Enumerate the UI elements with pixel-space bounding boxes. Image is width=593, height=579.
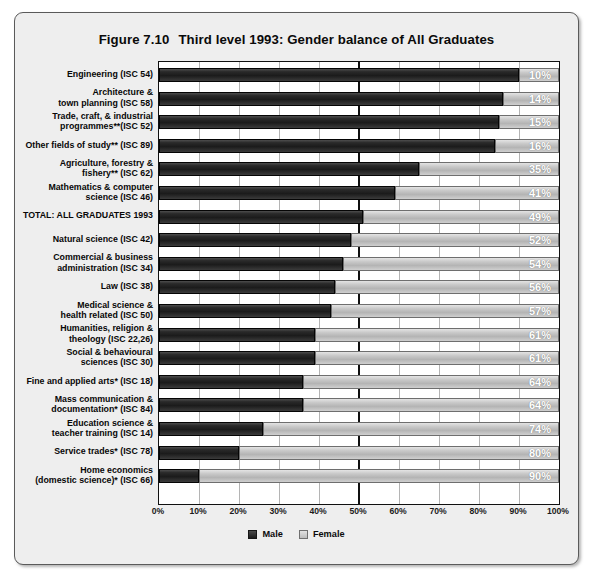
category-label-line: programmes**(ISC 52) [19, 121, 153, 132]
bar-segment-female [351, 233, 559, 247]
category-label-line: teacher training (ISC 14) [19, 428, 153, 439]
bar-segment-male [159, 257, 343, 271]
bar-segment-female [239, 446, 559, 460]
x-tick-label: 50% [349, 506, 366, 516]
category-label-line: Education science & [19, 418, 153, 429]
bar-row: 74% [159, 422, 559, 436]
bar-segment-female [303, 375, 559, 389]
legend-label-male: Male [262, 529, 282, 539]
category-label: Architecture &town planning (ISC 58) [19, 87, 153, 108]
category-label-line: Mathematics & computer [19, 182, 153, 193]
legend-swatch-female-icon [299, 530, 308, 539]
category-label-line: Architecture & [19, 87, 153, 98]
plot-area: 10%14%15%16%35%41%49%52%54%56%57%61%61%6… [158, 61, 560, 505]
category-label: TOTAL: ALL GRADUATES 1993 [19, 210, 153, 221]
bar-segment-male [159, 92, 503, 106]
x-tick-label: 90% [509, 506, 526, 516]
bar-segment-female [503, 92, 559, 106]
bar-segment-male [159, 375, 303, 389]
bar-segment-male [159, 210, 363, 224]
figure-title-text: Third level 1993: Gender balance of All … [178, 32, 494, 47]
bar-segment-female [495, 139, 559, 153]
category-label-line: Social & behavioural [19, 347, 153, 358]
bar-segment-male [159, 233, 351, 247]
bar-segment-female [519, 68, 559, 82]
category-label: Medical science &health related (ISC 50) [19, 300, 153, 321]
bar-segment-male [159, 162, 419, 176]
category-label-line: Agriculture, forestry & [19, 158, 153, 169]
bar-row: 16% [159, 139, 559, 153]
bar-row: 14% [159, 92, 559, 106]
bar-row: 15% [159, 115, 559, 129]
bar-segment-female [331, 304, 559, 318]
bar-segment-male [159, 280, 335, 294]
category-label: Service trades* (ISC 78) [19, 446, 153, 457]
figure-title: Figure 7.10Third level 1993: Gender bala… [15, 32, 578, 47]
bar-segment-female [263, 422, 559, 436]
category-label-line: Law (ISC 38) [19, 281, 153, 292]
category-label-line: fishery** (ISC 62) [19, 168, 153, 179]
category-label-line: Commercial & business [19, 252, 153, 263]
bar-row: 56% [159, 280, 559, 294]
bar-row: 52% [159, 233, 559, 247]
bar-segment-male [159, 115, 499, 129]
category-label-line: Humanities, religion & [19, 323, 153, 334]
category-label-line: Mass communication & [19, 394, 153, 405]
x-tick-label: 80% [469, 506, 486, 516]
category-label-line: Natural science (ISC 42) [19, 234, 153, 245]
category-label: Mathematics & computerscience (ISC 46) [19, 182, 153, 203]
category-label: Education science &teacher training (ISC… [19, 418, 153, 439]
category-label-line: administration (ISC 34) [19, 263, 153, 274]
bar-segment-female [315, 328, 559, 342]
bar-segment-male [159, 328, 315, 342]
bar-segment-female [315, 351, 559, 365]
bar-row: 61% [159, 351, 559, 365]
bar-segment-female [335, 280, 559, 294]
category-label-line: health related (ISC 50) [19, 310, 153, 321]
bar-segment-male [159, 304, 331, 318]
category-label: Law (ISC 38) [19, 281, 153, 292]
legend-label-female: Female [313, 529, 345, 539]
bar-row: 64% [159, 375, 559, 389]
bar-segment-male [159, 446, 239, 460]
category-label: Agriculture, forestry &fishery** (ISC 62… [19, 158, 153, 179]
bar-row: 64% [159, 398, 559, 412]
bar-segment-female [499, 115, 559, 129]
bar-segment-female [303, 398, 559, 412]
bar-segment-male [159, 186, 395, 200]
legend-item-male: Male [248, 529, 282, 539]
bar-segment-male [159, 469, 199, 483]
x-tick-label: 30% [269, 506, 286, 516]
category-label-line: Home economics [19, 465, 153, 476]
bar-segment-male [159, 68, 519, 82]
bar-row: 41% [159, 186, 559, 200]
legend-item-female: Female [299, 529, 345, 539]
category-label: Engineering (ISC 54) [19, 69, 153, 80]
x-tick-label: 60% [389, 506, 406, 516]
bar-segment-female [395, 186, 559, 200]
category-label: Trade, craft, & industrialprogrammes**(I… [19, 111, 153, 132]
bar-rows: 10%14%15%16%35%41%49%52%54%56%57%61%61%6… [159, 62, 559, 504]
x-axis-ticks: 0%10%20%30%40%50%60%70%80%90%100% [158, 506, 560, 522]
category-label-line: documentation* (ISC 84) [19, 404, 153, 415]
category-label: Humanities, religion &theology (ISC 22,2… [19, 323, 153, 344]
category-label: Commercial & businessadministration (ISC… [19, 252, 153, 273]
bar-row: 35% [159, 162, 559, 176]
category-label-line: Other fields of study** (ISC 89) [19, 140, 153, 151]
category-label-line: Fine and applied arts* (ISC 18) [19, 376, 153, 387]
category-label-line: sciences (ISC 30) [19, 357, 153, 368]
x-tick-label: 0% [152, 506, 164, 516]
category-label: Social & behaviouralsciences (ISC 30) [19, 347, 153, 368]
bar-segment-female [419, 162, 559, 176]
category-axis-labels: Engineering (ISC 54)Architecture &town p… [19, 61, 153, 503]
category-label-line: Service trades* (ISC 78) [19, 446, 153, 457]
x-tick-label: 70% [429, 506, 446, 516]
category-label-line: theology (ISC 22,26) [19, 334, 153, 345]
legend-swatch-male-icon [248, 530, 257, 539]
category-label: Natural science (ISC 42) [19, 234, 153, 245]
bar-segment-female [343, 257, 559, 271]
category-label-line: town planning (ISC 58) [19, 98, 153, 109]
category-label-line: (domestic science)* (ISC 66) [19, 475, 153, 486]
x-tick-label: 40% [309, 506, 326, 516]
bar-row: 61% [159, 328, 559, 342]
